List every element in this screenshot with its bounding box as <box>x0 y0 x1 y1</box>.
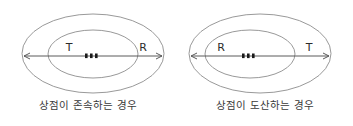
label-right-node: R <box>139 41 147 54</box>
label-left-node: T <box>65 41 73 54</box>
center-dot <box>85 54 88 59</box>
center-dot <box>252 54 255 59</box>
center-dot <box>242 54 245 59</box>
caption-shop-survives: 상점이 존속하는 경우 <box>0 97 176 112</box>
caption-shop-bankrupt: 상점이 도산하는 경우 <box>177 97 353 112</box>
figure-container: T R 상점이 존속하는 경우 R T 상점이 도산하는 경우 <box>0 0 353 126</box>
venn-diagram-left: T R <box>0 0 176 100</box>
label-right-node: T <box>305 41 313 54</box>
center-dot <box>90 54 93 59</box>
diagram-panel-shop-survives: T R 상점이 존속하는 경우 <box>0 0 176 126</box>
inner-ellipse <box>48 30 138 78</box>
label-left-node: R <box>217 41 225 54</box>
center-dot <box>95 54 98 59</box>
venn-diagram-right: R T <box>177 0 353 100</box>
center-dot <box>247 54 250 59</box>
inner-ellipse <box>205 30 295 78</box>
diagram-panel-shop-bankrupt: R T 상점이 도산하는 경우 <box>177 0 353 126</box>
